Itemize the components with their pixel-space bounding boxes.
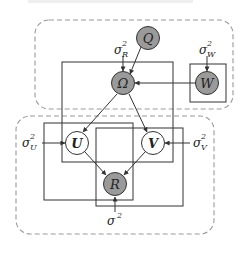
svg-text:W: W — [200, 76, 215, 91]
svg-text:V: V — [201, 143, 208, 152]
edge-q-omega — [130, 47, 141, 74]
node-u: U — [66, 132, 89, 155]
label-sigma-v: σ 2 V — [193, 132, 208, 152]
label-sigma-r: σ 2 R — [114, 39, 128, 59]
cropped-caption — [28, 0, 193, 3]
svg-text:U: U — [30, 143, 37, 152]
node-q: Q — [137, 27, 160, 50]
svg-text:2: 2 — [121, 39, 127, 48]
edge-omega-v — [129, 94, 147, 132]
svg-text:R: R — [121, 50, 128, 59]
svg-text:2: 2 — [29, 132, 35, 141]
svg-text:2: 2 — [206, 39, 212, 48]
node-r: R — [104, 173, 127, 196]
svg-text:R: R — [109, 177, 120, 192]
node-w: W — [196, 72, 219, 95]
svg-text:σ: σ — [107, 214, 116, 228]
svg-text:U: U — [71, 136, 83, 151]
label-sigma: σ 2 — [107, 211, 122, 228]
svg-text:Q: Q — [143, 31, 154, 46]
graphical-model-diagram: Q Ω W U V R σ 2 R σ 2 W σ 2 U σ 2 V σ — [0, 0, 249, 253]
label-sigma-w: σ 2 W — [199, 39, 216, 59]
node-omega: Ω — [112, 72, 135, 95]
edge-v-r — [124, 152, 145, 175]
svg-text:W: W — [207, 50, 216, 59]
svg-text:2: 2 — [116, 211, 122, 220]
svg-text:Ω: Ω — [117, 76, 129, 91]
edge-omega-u — [83, 94, 117, 132]
label-sigma-u: σ 2 U — [22, 132, 37, 152]
svg-text:2: 2 — [200, 132, 206, 141]
node-v: V — [142, 132, 165, 155]
